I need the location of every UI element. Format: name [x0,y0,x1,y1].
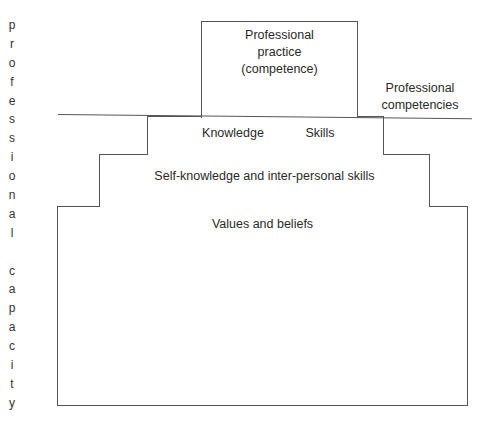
side-label-letter: o [0,167,24,186]
values-beliefs-label: Values and beliefs [57,216,468,233]
side-label-letter: f [0,73,24,92]
side-label-letter: l [0,224,24,243]
side-label-letter: t [0,375,24,394]
competencies-line-2: competencies [362,97,478,114]
side-label-letter: o [0,54,24,73]
practice-line-1: Professional [201,27,358,44]
side-label-letter: c [0,262,24,281]
side-label-letter: a [0,280,24,299]
side-label-letter: i [0,148,24,167]
professional-competencies-label: Professional competencies [362,80,478,114]
side-label-letter: n [0,186,24,205]
practice-line-3: (competence) [201,61,358,78]
side-label-letter: a [0,205,24,224]
practice-line-2: practice [201,44,358,61]
side-label-professional-capacity: professional capacity [0,16,24,413]
side-label-letter: r [0,35,24,54]
skills-label: Skills [300,125,340,142]
competencies-line-1: Professional [362,80,478,97]
side-label-letter: c [0,337,24,356]
side-label-letter: i [0,356,24,375]
side-label-letter: e [0,92,24,111]
knowledge-label: Knowledge [188,125,278,142]
side-label-letter: a [0,318,24,337]
side-label-letter: p [0,299,24,318]
side-label-letter: s [0,129,24,148]
values-beliefs-box [57,206,468,406]
side-label-letter [0,243,24,262]
side-label-letter: p [0,16,24,35]
professional-practice-label: Professional practice (competence) [201,27,358,78]
self-knowledge-label: Self-knowledge and inter-personal skills [99,168,430,185]
side-label-letter: s [0,110,24,129]
side-label-letter: y [0,394,24,413]
